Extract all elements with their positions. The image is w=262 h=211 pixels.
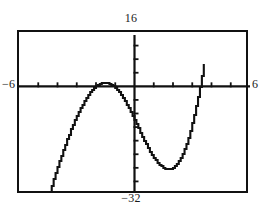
cubic-curve-path: [50, 64, 204, 192]
function-curve: [50, 64, 204, 192]
x-min-label: −6: [2, 78, 15, 90]
calculator-screen: 16 −32 −6 6: [0, 0, 262, 211]
y-max-label: 16: [0, 12, 262, 24]
plot-canvas: [19, 32, 250, 195]
axes-group: [19, 35, 250, 192]
x-max-label: 6: [252, 78, 258, 90]
plot-frame: [17, 30, 248, 193]
